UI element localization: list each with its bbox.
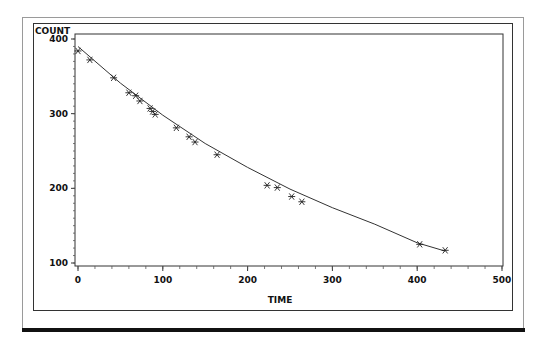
x-tick-label: 300 [323,275,342,285]
data-point-marker [86,57,93,63]
y-tick-label: 200 [49,183,68,193]
ticks: 1002003004000100200300400500 [49,34,511,285]
x-tick-label: 100 [153,275,172,285]
axes [75,34,503,266]
data-point-marker [416,241,423,247]
data-point-marker [274,184,281,190]
data-point-marker [442,247,449,253]
data-point-marker [214,152,221,158]
x-axis-label: TIME [268,295,293,305]
y-tick-label: 300 [49,109,68,119]
data-point-marker [192,139,199,145]
x-tick-label: 200 [238,275,257,285]
plot-area [75,34,503,266]
data-point-marker [125,90,132,96]
y-tick-label: 100 [49,258,68,268]
x-tick-label: 400 [408,275,427,285]
x-tick-label: 0 [75,275,81,285]
x-tick-label: 500 [493,275,512,285]
data-point-marker [288,193,295,199]
fitted-curve [78,47,445,252]
y-axis-label: COUNT [35,26,71,36]
data-points [75,48,449,254]
data-point-marker [264,182,271,188]
data-point-marker [298,199,305,205]
scatter-chart: 1002003004000100200300400500 COUNT TIME [0,0,550,347]
